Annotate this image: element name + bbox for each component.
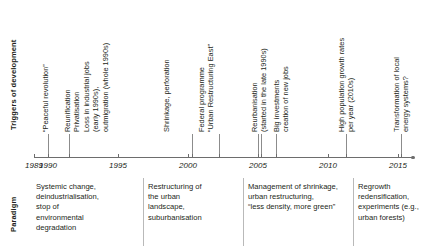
trigger-label-line: Reurbanisation [250,48,259,132]
axis-tick [328,154,329,158]
trigger-axis-tick [258,154,259,158]
trigger-label-line: Reunification [63,89,72,132]
axis-tick [118,154,119,158]
paradigm-cell-line: landscape, [148,202,244,212]
paradigm-cell-line: Restructuring of [148,182,244,192]
axis-tick [34,154,35,158]
axis-year-label: 2000 [179,161,197,170]
paradigm-row-axis-label: Paradigm [9,197,18,232]
paradigm-cell-line: deindustrialisation, [36,192,142,202]
trigger-label-line: per year (2010s) [346,38,355,132]
trigger-axis-tick [346,154,347,158]
trigger-label-loss-industrial-jobs: Loss in industrial jobs(early 1990s),out… [82,43,110,132]
paradigm-cell-line: Systemic change, [36,182,142,192]
axis-year-label: 2010 [319,161,337,170]
trigger-label-privatisation: Privatisation [72,92,81,132]
trigger-leader-line [192,134,193,156]
trigger-leader-line [261,134,262,156]
trigger-label-high-population-growth: High population growth ratesper year (20… [337,38,356,132]
paradigm-cell-regrowth-redensification: Regrowthredensification,experiments (e.g… [358,182,444,223]
trigger-label-reurbanisation: Reurbanisation(started in the late 1990s… [250,48,269,132]
paradigm-cell-line: stop of [36,202,142,212]
trigger-label-reunification: Reunification [63,89,72,132]
paradigm-cell-line: suburbanisation [148,213,244,223]
trigger-label-energy-transformation: Transformation of localenergy systems? [392,57,411,132]
paradigm-cell-line: “less density, more green” [248,202,352,212]
paradigm-cell-restructuring-urban-landscape: Restructuring ofthe urbanlandscape,subur… [148,182,244,223]
paradigm-cell-line: Regrowth [358,182,444,192]
trigger-leader-line [346,134,347,156]
axis-year-label: 1990 [39,161,57,170]
axis-year-label: 1995 [109,161,127,170]
paradigm-cell-management-of-shrinkage: Management of shrinkage,urban restructur… [248,182,352,213]
trigger-label-line: High population growth rates [337,38,346,132]
trigger-leader-line [401,134,402,156]
trigger-axis-tick [261,154,262,158]
trigger-axis-tick [219,154,220,158]
trigger-label-line: “Urban Restructuring East” [206,44,215,132]
trigger-label-line: Big investments [272,66,281,132]
trigger-leader-line [69,134,70,156]
paradigm-divider [353,178,354,246]
trigger-label-line: Shrinkage, perforation [162,59,171,132]
trigger-axis-tick [276,154,277,158]
trigger-label-big-investments: Big investmentscreation of new jobs [272,66,291,132]
trigger-label-line: (started in the late 1990s) [259,48,268,132]
trigger-leader-line [48,134,49,156]
trigger-label-shrinkage-perforation: Shrinkage, perforation [162,59,171,132]
trigger-label-line: “Peaceful revolution” [41,64,50,132]
timeline-figure: Triggers of development Paradigm “Peacef… [0,0,446,248]
triggers-row-axis-label: Triggers of development [9,40,18,131]
trigger-label-federal-programme: Federal programme“Urban Restructuring Ea… [197,44,216,132]
paradigm-divider [143,178,144,246]
paradigm-cell-line: redensification, [358,192,444,202]
trigger-label-line: Loss in industrial jobs [82,43,91,132]
trigger-label-line: Privatisation [72,92,81,132]
trigger-label-line: (early 1990s), [91,43,100,132]
axis-year-label: 2015 [389,161,407,170]
trigger-leader-line [219,134,220,156]
trigger-axis-tick [192,154,193,158]
trigger-axis-tick [401,154,402,158]
trigger-axis-tick [48,154,49,158]
trigger-leader-line [258,134,259,156]
timeline-axis-line [34,157,412,158]
paradigm-cell-line: environmental [36,213,142,223]
trigger-label-line: outmigration (whole 1990s) [101,43,110,132]
timeline-axis-endcap [411,156,415,160]
axis-tick [398,154,399,158]
paradigm-cell-line: experiments (e.g., [358,202,444,212]
trigger-label-line: creation of new jobs [281,66,290,132]
axis-year-label: 2005 [249,161,267,170]
axis-tick [188,154,189,158]
trigger-label-line: Federal programme [197,44,206,132]
paradigm-cell-systemic-change: Systemic change,deindustrialisation,stop… [36,182,142,233]
trigger-label-line: energy systems? [401,57,410,132]
paradigm-cell-line: urban forests) [358,213,444,223]
trigger-leader-line [276,134,277,156]
trigger-label-peaceful-revolution: “Peaceful revolution” [41,64,50,132]
trigger-label-line: Transformation of local [392,57,401,132]
trigger-axis-tick [69,154,70,158]
paradigm-cell-line: Management of shrinkage, [248,182,352,192]
paradigm-cell-line: urban restructuring, [248,192,352,202]
paradigm-cell-line: the urban [148,192,244,202]
paradigm-cell-line: degradation [36,223,142,233]
